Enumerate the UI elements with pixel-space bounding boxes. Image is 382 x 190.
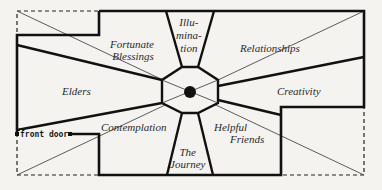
label-helpful-friends: Helpful Friends [214,121,264,145]
label-elders: Elders [62,85,91,97]
label-line: Illu- [176,16,202,29]
label-line: Journey [170,158,205,170]
label-line: Friends [214,133,264,145]
label-contemplation: Contemplation [101,121,166,133]
label-creativity: Creativity [277,85,321,97]
center-dot [184,86,196,98]
front-door-label: front door [20,130,68,139]
label-line: The [170,146,205,158]
label-line: Helpful [214,121,264,133]
label-line: Fortunate [110,38,154,50]
label-illumination: Illu- mina- tion [176,16,202,55]
label-the-journey: The Journey [170,146,205,170]
label-fortunate-blessings: Fortunate Blessings [110,38,154,62]
label-relationships: Relationships [240,42,300,54]
label-line: tion [176,42,202,55]
label-line: Blessings [110,50,154,62]
label-line: mina- [176,29,202,42]
